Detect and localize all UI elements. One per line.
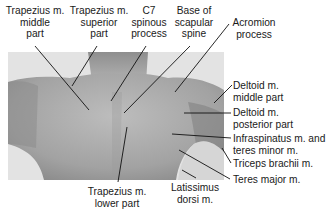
label-trapezius-superior: Trapezius m. superior part [68,5,130,40]
back-silhouette [8,52,224,180]
back-photograph [8,52,224,180]
label-teres-major: Teres major m. [233,174,300,186]
label-base-of-scapular-spine: Base of scapular spine [172,5,216,40]
label-trapezius-middle: Trapezius m. middle part [4,5,66,40]
label-trapezius-lower: Trapezius m. lower part [82,186,152,209]
label-deltoid-middle: Deltoid m. middle part [233,80,283,103]
label-latissimus-dorsi: Latissimus dorsi m. [168,182,222,205]
label-triceps-brachii: Triceps brachii m. [233,158,313,170]
label-acromion-process: Acromion process [228,17,280,40]
label-deltoid-posterior: Deltoid m. posterior part [233,107,293,130]
label-infraspinatus-teres-minor: Infraspinatus m. and teres minor m. [233,133,325,156]
label-c7-spinous-process: C7 spinous process [128,5,170,40]
